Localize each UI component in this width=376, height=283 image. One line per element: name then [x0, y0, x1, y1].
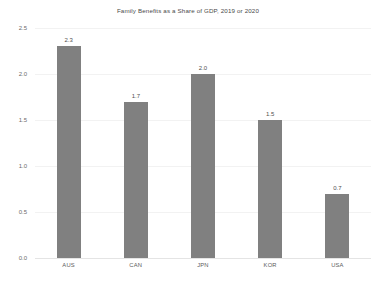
- x-axis-tick-label: KOR: [237, 262, 304, 268]
- bar[interactable]: [258, 120, 282, 258]
- chart-title: Family Benefits as a Share of GDP, 2019 …: [0, 7, 376, 14]
- y-axis-tick-label: 2.0: [19, 71, 27, 77]
- bar-value-label: 1.7: [124, 93, 148, 99]
- bar-group: 1.7: [124, 28, 148, 258]
- x-axis-tick-label: USA: [304, 262, 371, 268]
- plot-area: 2.31.72.01.50.7: [35, 28, 371, 258]
- y-axis-tick-label: 2.5: [19, 25, 27, 31]
- x-axis-tick-label: AUS: [35, 262, 102, 268]
- bar[interactable]: [191, 74, 215, 258]
- bar-chart: Family Benefits as a Share of GDP, 2019 …: [0, 0, 376, 283]
- bar[interactable]: [57, 46, 81, 258]
- bar-group: 2.0: [191, 28, 215, 258]
- bar-value-label: 2.0: [191, 65, 215, 71]
- bar[interactable]: [124, 102, 148, 258]
- bar-value-label: 1.5: [258, 111, 282, 117]
- y-axis-tick-label: 0.5: [19, 209, 27, 215]
- gridline: [35, 258, 371, 259]
- bar-group: 0.7: [325, 28, 349, 258]
- bar[interactable]: [325, 194, 349, 258]
- bar-value-label: 0.7: [325, 185, 349, 191]
- bar-value-label: 2.3: [57, 37, 81, 43]
- bar-group: 2.3: [57, 28, 81, 258]
- x-axis-tick-label: JPN: [169, 262, 236, 268]
- bar-group: 1.5: [258, 28, 282, 258]
- y-axis-tick-label: 1.0: [19, 163, 27, 169]
- x-axis-tick-label: CAN: [102, 262, 169, 268]
- y-axis: 0.00.51.01.52.02.5: [0, 28, 33, 258]
- y-axis-tick-label: 0.0: [19, 255, 27, 261]
- y-axis-tick-label: 1.5: [19, 117, 27, 123]
- x-axis: AUSCANJPNKORUSA: [35, 262, 371, 278]
